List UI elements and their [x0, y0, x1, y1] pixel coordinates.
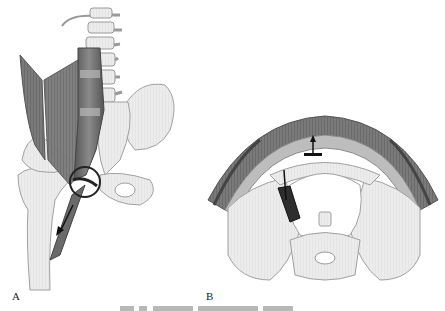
panel-b-illustration: [208, 116, 438, 280]
pelvic-inlet: [289, 174, 362, 241]
figure-caption-truncated: [120, 303, 340, 311]
obturator-foramen: [115, 183, 135, 197]
panel-label-b: B: [206, 290, 213, 302]
panel-a-illustration: [18, 8, 174, 290]
caption-fragment: [153, 306, 193, 311]
caption-fragment: [198, 306, 258, 311]
iliac-wing-right: [124, 84, 174, 150]
caption-fragment: [120, 306, 134, 311]
caption-fragment: [139, 306, 147, 311]
tendon-marker: [304, 153, 322, 156]
caption-fragment: [263, 306, 293, 311]
vertebral-canal: [315, 252, 335, 264]
panel-label-a: A: [12, 290, 20, 302]
anatomical-figure: [0, 0, 445, 311]
